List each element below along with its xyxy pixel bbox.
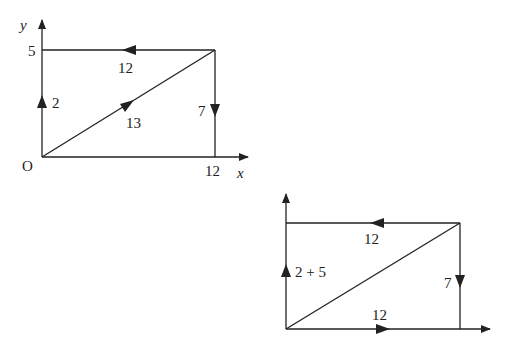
left-vector-label: 2 (52, 95, 60, 111)
origin-label: O (22, 158, 33, 174)
arrowhead-left-icon (122, 45, 136, 55)
x-axis-label: x (236, 165, 244, 181)
top-edge-label-2: 12 (364, 231, 379, 247)
bottom-vector-label-2: 12 (372, 307, 387, 323)
arrowhead-up-icon (37, 95, 47, 108)
top-edge-label: 12 (118, 60, 133, 76)
right-edge-label: 7 (198, 103, 206, 119)
x-tick-label: 12 (205, 163, 220, 179)
y-axis-label: y (18, 17, 27, 33)
vector-diagrams: y x O 5 12 12 2 13 7 12 2 + 5 7 12 (0, 0, 505, 361)
diagonal-label: 13 (126, 115, 141, 131)
right-edge-label-2: 7 (444, 275, 452, 291)
arrowhead-up-icon (281, 264, 291, 277)
y-tick-label: 5 (28, 43, 36, 59)
left-vector-label-2: 2 + 5 (295, 264, 326, 280)
arrowhead-right-icon (376, 324, 390, 334)
arrowhead-down-icon (210, 104, 220, 117)
arrowhead-down-icon (455, 275, 465, 288)
arrowhead-left-icon (370, 218, 384, 228)
arrowhead-diagonal-icon (120, 100, 134, 112)
diagram-1 (37, 20, 248, 157)
